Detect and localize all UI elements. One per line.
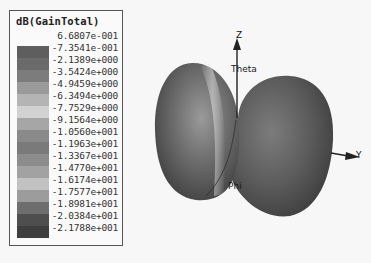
theta-label: Theta <box>231 64 257 74</box>
right-lobe <box>230 76 333 217</box>
z-axis-label: Z <box>236 30 242 40</box>
y-axis-label: Y <box>356 150 362 160</box>
phi-label: Phi <box>228 181 242 191</box>
left-lobe <box>155 63 239 200</box>
radiation-pattern-plot <box>0 0 371 263</box>
